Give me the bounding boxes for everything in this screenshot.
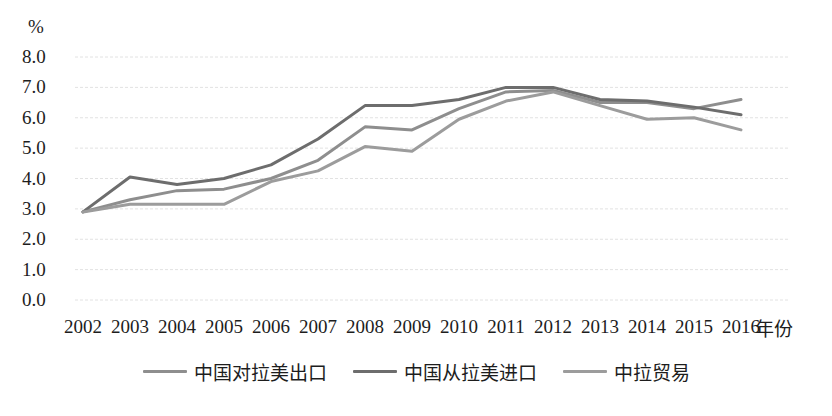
x-axis-tick-label: 2012 <box>534 316 572 338</box>
x-axis-tick-label: 2006 <box>252 316 290 338</box>
legend-line-swatch <box>353 370 397 373</box>
series-line-group <box>83 87 741 212</box>
plot-area <box>0 0 832 416</box>
x-axis-tick-label: 2002 <box>64 316 102 338</box>
x-axis-tick-label: 2009 <box>393 316 431 338</box>
x-axis-tick-label: 2011 <box>487 316 524 338</box>
series-line <box>83 92 741 212</box>
x-axis-tick-label: 2010 <box>440 316 478 338</box>
legend-item: 中国对拉美出口 <box>143 358 327 385</box>
legend-line-swatch <box>563 370 607 373</box>
x-axis-tick-label: 2004 <box>158 316 196 338</box>
legend-item: 中国从拉美进口 <box>353 358 537 385</box>
gridline-group <box>75 57 790 300</box>
x-axis-tick-label: 2003 <box>111 316 149 338</box>
x-axis-tick-label: 2015 <box>675 316 713 338</box>
legend-item: 中拉贸易 <box>563 358 690 385</box>
x-axis-tick-label: 2014 <box>628 316 666 338</box>
x-axis-tick-label: 2013 <box>581 316 619 338</box>
line-chart: % 0.01.02.03.04.05.06.07.08.0 2002200320… <box>0 0 832 416</box>
x-axis-tick-label: 2005 <box>205 316 243 338</box>
legend-line-swatch <box>143 370 187 373</box>
x-axis-tick-label: 2007 <box>299 316 337 338</box>
chart-legend: 中国对拉美出口中国从拉美进口中拉贸易 <box>0 358 832 385</box>
x-axis-tick-label: 2008 <box>346 316 384 338</box>
x-axis-title: 年份 <box>755 314 793 341</box>
legend-label: 中拉贸易 <box>614 358 690 385</box>
legend-label: 中国从拉美进口 <box>404 358 537 385</box>
legend-label: 中国对拉美出口 <box>194 358 327 385</box>
